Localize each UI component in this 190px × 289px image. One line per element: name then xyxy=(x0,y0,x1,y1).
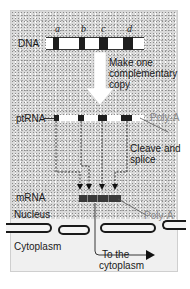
export-text-line1: To the xyxy=(102,249,129,260)
export-text-line2: cytoplasm xyxy=(99,260,144,271)
cytoplasm-label: Cytoplasm xyxy=(14,241,61,252)
